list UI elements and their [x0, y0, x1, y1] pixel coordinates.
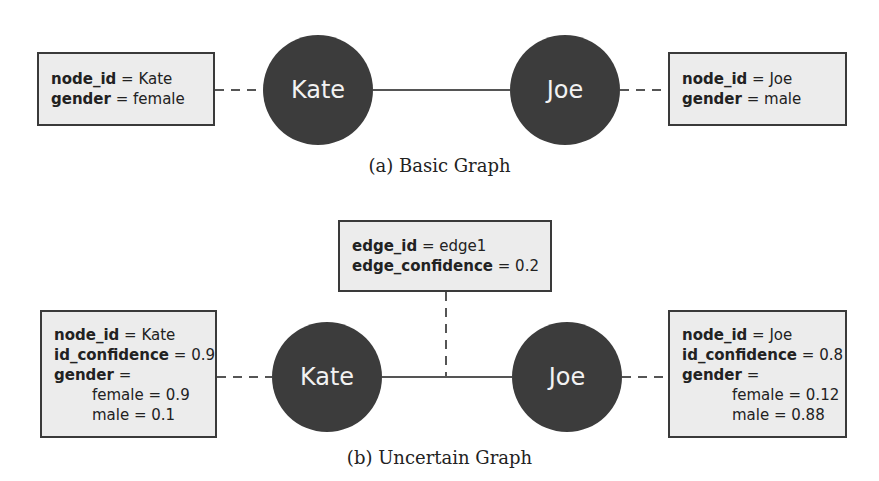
attr-value: 0.9 — [191, 346, 215, 364]
distribution-male: male = 0.88 — [732, 406, 825, 424]
attr-key: node_id — [682, 326, 747, 344]
node-label: Kate — [300, 363, 354, 391]
attr-key: edge_confidence — [352, 257, 493, 275]
attr-eq: = — [114, 366, 131, 384]
attr-value: Kate — [138, 70, 172, 88]
attr-value: Kate — [141, 326, 175, 344]
attr-key: node_id — [682, 70, 747, 88]
attr-eq: = — [747, 326, 769, 344]
edge-attribute-box: edge_id = edge1 edge_confidence = 0.2 — [338, 220, 552, 292]
attr-eq: = — [747, 70, 769, 88]
node-kate-basic: Kate — [263, 35, 373, 145]
attr-key: edge_id — [352, 237, 417, 255]
attr-key: id_confidence — [682, 346, 797, 364]
attr-key: node_id — [51, 70, 116, 88]
attr-key: gender — [682, 366, 742, 384]
attr-eq: = — [119, 326, 141, 344]
attr-eq: = — [742, 90, 764, 108]
caption-uncertain-graph: (b) Uncertain Graph — [0, 447, 879, 468]
attr-eq: = — [493, 257, 515, 275]
attr-value: 0.2 — [515, 257, 539, 275]
attr-value: male — [764, 90, 801, 108]
attr-key: gender — [51, 90, 111, 108]
joe-attribute-box-basic: node_id = Joe gender = male — [668, 52, 847, 126]
attr-eq: = — [111, 90, 133, 108]
caption-basic-graph: (a) Basic Graph — [0, 155, 879, 176]
attr-value: edge1 — [439, 237, 486, 255]
attr-eq: = — [742, 366, 759, 384]
kate-attribute-box-basic: node_id = Kate gender = female — [37, 52, 215, 126]
node-label: Kate — [291, 76, 345, 104]
distribution-female: female = 0.12 — [732, 386, 839, 404]
attr-key: id_confidence — [54, 346, 169, 364]
attr-value: female — [133, 90, 185, 108]
attr-eq: = — [169, 346, 191, 364]
attr-eq: = — [797, 346, 819, 364]
joe-attribute-box-uncertain: node_id = Joe id_confidence = 0.8 gender… — [668, 310, 847, 438]
distribution-female: female = 0.9 — [92, 386, 190, 404]
attr-value: Joe — [769, 326, 792, 344]
node-label: Joe — [547, 76, 584, 104]
attr-key: gender — [682, 90, 742, 108]
node-joe-uncertain: Joe — [512, 322, 622, 432]
attr-key: gender — [54, 366, 114, 384]
kate-attribute-box-uncertain: node_id = Kate id_confidence = 0.9 gende… — [40, 310, 217, 438]
attr-key: node_id — [54, 326, 119, 344]
node-label: Joe — [549, 363, 586, 391]
node-joe-basic: Joe — [510, 35, 620, 145]
distribution-male: male = 0.1 — [92, 406, 175, 424]
attr-value: Joe — [769, 70, 792, 88]
attr-value: 0.8 — [819, 346, 843, 364]
attr-eq: = — [116, 70, 138, 88]
attr-eq: = — [417, 237, 439, 255]
node-kate-uncertain: Kate — [272, 322, 382, 432]
